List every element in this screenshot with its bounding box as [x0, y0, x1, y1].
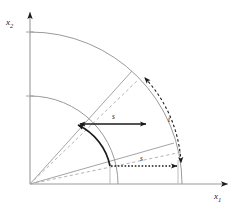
axes-group [30, 12, 228, 184]
thick-angle-arc-group [78, 125, 110, 166]
vector-s-lower-label: s [140, 155, 143, 163]
concentric-arcs-group [30, 32, 182, 184]
polar-vector-diagram: x2 x1 s s t [0, 0, 249, 213]
vector-t-label: t [168, 116, 170, 124]
radial-rays-group [30, 71, 182, 184]
droplines-group [110, 160, 178, 184]
y-axis-label-sub: 2 [10, 22, 13, 29]
y-axis-label: x2 [6, 18, 13, 29]
x-axis-label-sub: 1 [218, 196, 221, 203]
ray-lower-dashed [30, 152, 182, 184]
x-axis-label: x1 [214, 192, 221, 203]
diagram-canvas [0, 0, 249, 213]
outer-arc [30, 32, 182, 184]
vector-s-upper-label: s [112, 113, 115, 121]
thick-angle-arc [78, 125, 110, 166]
